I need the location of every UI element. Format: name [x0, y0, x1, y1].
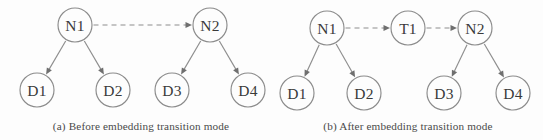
- edge-line: [306, 45, 319, 74]
- node-n2[interactable]: N2: [458, 11, 492, 45]
- node-label: N2: [200, 17, 219, 34]
- arrow-head-icon: [451, 25, 458, 31]
- edges-layer: [46, 22, 504, 77]
- arrow-head-icon: [384, 25, 391, 31]
- node-label: N1: [317, 20, 336, 37]
- node-label: D3: [162, 82, 181, 99]
- arrow-head-icon: [186, 22, 193, 28]
- edge-line: [453, 45, 467, 74]
- edge-solid: [336, 44, 355, 77]
- edge-dashed: [427, 25, 458, 31]
- node-n1[interactable]: N1: [58, 8, 92, 42]
- node-n2[interactable]: N2: [193, 8, 227, 42]
- panel-caption: (a) Before embedding transition mode: [53, 120, 229, 133]
- node-label: D4: [503, 85, 522, 102]
- node-label: D2: [354, 85, 373, 102]
- node-d4[interactable]: D4: [496, 76, 530, 110]
- node-d3[interactable]: D3: [155, 73, 189, 107]
- node-d2[interactable]: D2: [347, 76, 381, 110]
- edge-solid: [305, 45, 320, 77]
- node-d3[interactable]: D3: [427, 76, 461, 110]
- edge-line: [484, 44, 502, 74]
- node-d2[interactable]: D2: [96, 73, 130, 107]
- node-d1[interactable]: D1: [280, 76, 314, 110]
- node-label: N2: [465, 20, 484, 37]
- panel-caption: (b) After embedding transition mode: [323, 120, 492, 133]
- node-d1[interactable]: D1: [20, 73, 54, 107]
- edge-solid: [484, 44, 504, 77]
- node-label: N1: [65, 17, 84, 34]
- node-d4[interactable]: D4: [231, 73, 265, 107]
- node-label: D4: [238, 82, 257, 99]
- edge-line: [84, 41, 102, 71]
- edge-line: [48, 41, 66, 71]
- edge-line: [183, 41, 201, 71]
- node-label: D3: [434, 85, 453, 102]
- node-label: D2: [103, 82, 122, 99]
- nodes-layer: N1N2D1D2D3D4N1T1N2D1D2D3D4: [20, 8, 530, 110]
- edge-line: [219, 41, 237, 71]
- node-n1[interactable]: N1: [310, 11, 344, 45]
- node-label: D1: [287, 85, 306, 102]
- edge-solid: [181, 41, 201, 74]
- diagram-svg: N1N2D1D2D3D4N1T1N2D1D2D3D4 (a) Before em…: [0, 0, 543, 140]
- node-label: D1: [27, 82, 46, 99]
- node-label: T1: [399, 20, 417, 37]
- edge-solid: [84, 41, 104, 74]
- edge-dashed: [346, 25, 391, 31]
- edge-solid: [219, 41, 239, 74]
- edge-solid: [46, 41, 66, 74]
- edge-solid: [452, 45, 467, 77]
- node-t1[interactable]: T1: [391, 11, 425, 45]
- captions-layer: (a) Before embedding transition mode(b) …: [53, 120, 493, 133]
- edge-dashed: [94, 22, 193, 28]
- figure-container: N1N2D1D2D3D4N1T1N2D1D2D3D4 (a) Before em…: [0, 0, 543, 140]
- edge-line: [336, 44, 353, 74]
